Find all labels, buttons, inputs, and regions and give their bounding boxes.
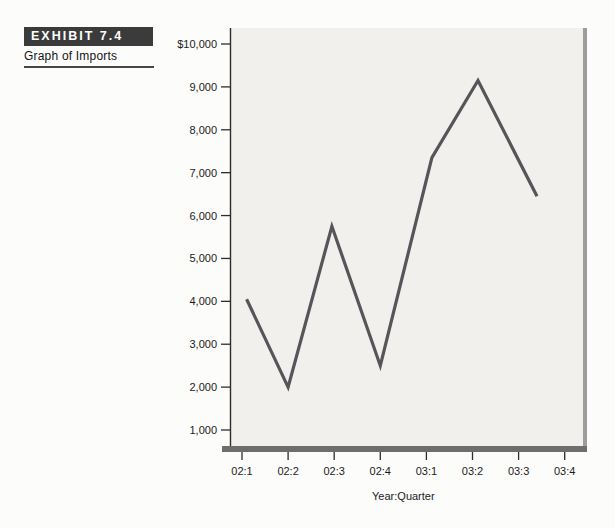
x-tick-label: 03:2 [462, 465, 483, 477]
x-tick-label: 02:4 [370, 465, 391, 477]
x-axis-title: Year:Quarter [372, 490, 435, 502]
x-tick-label: 02:1 [231, 465, 252, 477]
y-tick-label: 3,000 [189, 338, 217, 350]
y-tick-label: 1,000 [189, 424, 217, 436]
x-tick-label: 02:3 [323, 465, 344, 477]
y-tick-label: $10,000 [177, 38, 217, 50]
y-tick-label: 9,000 [189, 81, 217, 93]
x-tick-label: 02:2 [277, 465, 298, 477]
imports-line-chart: $10,0009,0008,0007,0006,0005,0004,0003,0… [0, 0, 615, 528]
x-tick-label: 03:1 [416, 465, 437, 477]
plot-frame-right [583, 28, 587, 450]
plot-area [230, 28, 583, 446]
y-tick-label: 8,000 [189, 124, 217, 136]
plot-frame-bottom [222, 446, 587, 452]
y-tick-label: 4,000 [189, 295, 217, 307]
y-tick-label: 7,000 [189, 167, 217, 179]
x-tick-label: 03:4 [554, 465, 575, 477]
y-tick-label: 5,000 [189, 252, 217, 264]
y-tick-label: 2,000 [189, 381, 217, 393]
x-tick-label: 03:3 [508, 465, 529, 477]
y-tick-label: 6,000 [189, 210, 217, 222]
